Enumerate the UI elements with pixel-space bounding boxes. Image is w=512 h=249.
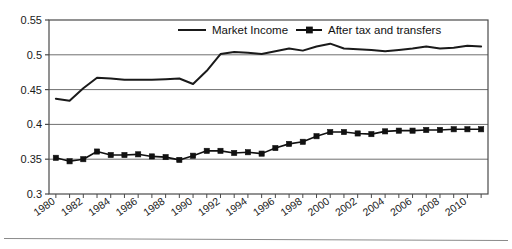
legend-marker-after-tax xyxy=(306,27,313,34)
data-point-marker xyxy=(300,139,305,144)
legend-label-market-income: Market Income xyxy=(212,24,288,36)
data-point-marker xyxy=(369,132,374,137)
y-tick-label: 0.3 xyxy=(27,188,42,200)
data-point-marker xyxy=(53,155,58,160)
data-point-marker xyxy=(190,153,195,158)
data-point-marker xyxy=(465,127,470,132)
gini-line-chart: 0.30.350.40.450.50.55 198019821984198619… xyxy=(0,0,512,249)
data-point-marker xyxy=(479,127,484,132)
y-tick-label: 0.45 xyxy=(21,84,42,96)
data-point-marker xyxy=(177,157,182,162)
data-point-marker xyxy=(410,128,415,133)
data-point-marker xyxy=(81,157,86,162)
data-point-marker xyxy=(67,159,72,164)
data-point-marker xyxy=(273,145,278,150)
data-point-marker xyxy=(451,127,456,132)
chart-figure: 0.30.350.40.450.50.55 198019821984198619… xyxy=(0,0,512,249)
data-point-marker xyxy=(314,134,319,139)
data-point-marker xyxy=(122,152,127,157)
data-point-marker xyxy=(424,127,429,132)
data-point-marker xyxy=(341,129,346,134)
data-point-marker xyxy=(232,150,237,155)
data-point-marker xyxy=(108,152,113,157)
data-point-marker xyxy=(259,151,264,156)
data-point-marker xyxy=(136,152,141,157)
data-point-marker xyxy=(94,149,99,154)
data-point-marker xyxy=(245,150,250,155)
data-point-marker xyxy=(218,148,223,153)
data-point-marker xyxy=(286,141,291,146)
legend-label-after-tax: After tax and transfers xyxy=(328,24,441,36)
data-point-marker xyxy=(437,127,442,132)
y-tick-label: 0.35 xyxy=(21,153,42,165)
y-tick-label: 0.5 xyxy=(27,49,42,61)
data-point-marker xyxy=(396,128,401,133)
data-point-marker xyxy=(383,129,388,134)
y-tick-label: 0.55 xyxy=(21,14,42,26)
data-point-marker xyxy=(328,129,333,134)
data-point-marker xyxy=(149,154,154,159)
y-tick-label: 0.4 xyxy=(27,118,42,130)
data-point-marker xyxy=(163,155,168,160)
data-point-marker xyxy=(204,148,209,153)
data-point-marker xyxy=(355,131,360,136)
